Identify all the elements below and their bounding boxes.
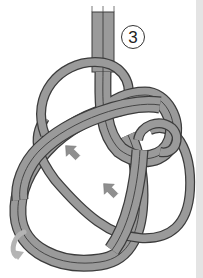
step-number-badge: 3	[121, 25, 145, 49]
rope-drawing	[0, 0, 203, 278]
knot-illustration: 3	[0, 0, 203, 278]
arrow-up-right-icon	[61, 141, 83, 163]
arrow-up-right-icon	[99, 179, 121, 201]
page-edge-strip	[196, 0, 203, 278]
